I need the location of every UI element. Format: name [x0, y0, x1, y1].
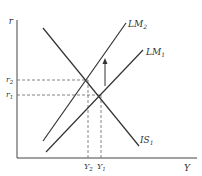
r2-tick-label: r2 — [6, 75, 14, 85]
lm1-curve — [46, 50, 143, 152]
y2-tick-label: Y2 — [84, 162, 93, 172]
lm2-label: LM2 — [127, 19, 147, 30]
lm2-curve — [43, 23, 126, 141]
x-axis-label: Y — [184, 163, 191, 173]
is1-label: IS1 — [139, 135, 154, 146]
is-lm-diagram: r Y LM2 LM1 IS1 r2 r1 Y2 Y1 — [0, 0, 202, 176]
y-axis-label: r — [9, 16, 14, 26]
y1-tick-label: Y1 — [97, 162, 106, 172]
r1-tick-label: r1 — [6, 90, 13, 100]
is1-curve — [43, 28, 139, 146]
shift-arrow-icon — [103, 58, 108, 64]
lm1-label: LM1 — [145, 47, 165, 58]
